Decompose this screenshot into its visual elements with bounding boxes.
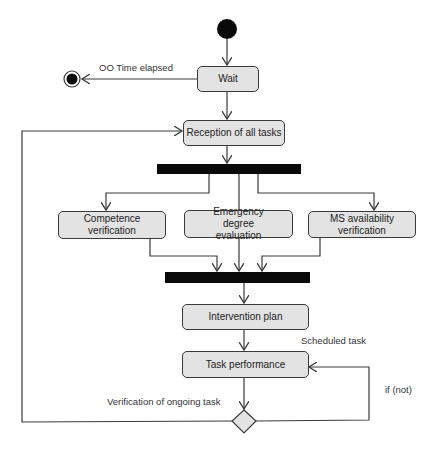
wait-node: Wait [197, 66, 259, 92]
emergency-node: Emergency degree evaluation [184, 210, 293, 238]
decision-diamond [232, 410, 256, 433]
verification-ongoing-label: Verification of ongoing task [107, 396, 221, 407]
fork-bar [157, 164, 301, 174]
scheduled-task-label: Scheduled task [301, 335, 366, 346]
initial-node [217, 19, 237, 39]
if-not-label: if (not) [385, 384, 412, 395]
time-elapsed-label: OO Time elapsed [99, 62, 173, 73]
join-bar [165, 272, 310, 283]
intervention-node: Intervention plan [182, 304, 309, 330]
ms-availability-node: MS availability verification [308, 211, 416, 238]
reception-node: Reception of all tasks [183, 120, 285, 146]
task-performance-node: Task performance [182, 351, 309, 378]
competence-node: Competence verification [58, 211, 166, 239]
